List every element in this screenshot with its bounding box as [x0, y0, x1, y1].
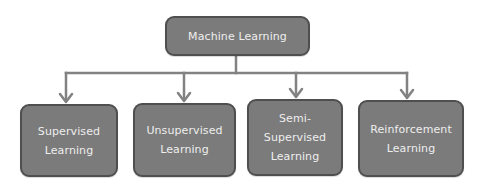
node-label: Unsupervised Learning: [146, 121, 222, 159]
node-machine-learning: Machine Learning: [165, 16, 310, 56]
node-unsupervised-learning: Unsupervised Learning: [133, 103, 236, 177]
node-semi-supervised-learning: Semi- Supervised Learning: [247, 99, 343, 176]
node-label: Semi- Supervised Learning: [264, 109, 326, 166]
node-reinforcement-learning: Reinforcement Learning: [358, 100, 464, 177]
node-label: Machine Learning: [188, 27, 287, 46]
node-label: Reinforcement Learning: [370, 120, 452, 158]
ml-hierarchy-diagram: Machine Learning Supervised Learning Uns…: [0, 0, 486, 189]
node-supervised-learning: Supervised Learning: [20, 104, 118, 177]
node-label: Supervised Learning: [38, 122, 100, 160]
